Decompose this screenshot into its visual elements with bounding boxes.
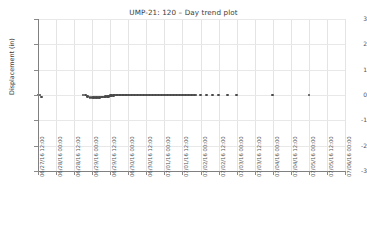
x-axis-tick-label: 07/02/16 12:00 [221,136,226,177]
x-axis-tick-label: 07/01/16 12:00 [184,136,189,177]
x-axis-tick-label: 07/06/16 00:00 [347,136,352,177]
x-axis-tick-label: 07/05/16 00:00 [311,136,316,177]
x-axis-tick-label: 06/28/16 00:00 [58,136,63,177]
x-axis-tick-label: 07/04/16 12:00 [293,136,298,177]
y-axis-label: Displacement (in) [9,38,15,95]
gridline-horizontal [38,70,345,71]
x-axis-tick-label: 06/28/16 12:00 [76,136,81,177]
gridline-horizontal [38,146,345,147]
x-axis-tick-label: 06/29/16 12:00 [112,136,117,177]
x-axis-tick-label: 07/02/16 00:00 [203,136,208,177]
y-axis-tick-label: -1 [337,117,367,123]
x-axis-tick-label: 07/03/16 12:00 [257,136,262,177]
x-axis-spine [38,171,346,172]
x-axis-tick-label: 07/04/16 00:00 [275,136,280,177]
y-axis-tick [34,70,38,71]
trend-plot-figure: UMP-21: 120 – Day trend plot Displacemen… [0,0,367,226]
x-axis-tick-label: 07/03/16 00:00 [239,136,244,177]
gridline-horizontal [38,19,345,20]
gridline-horizontal [38,44,345,45]
y-axis-tick [34,120,38,121]
y-axis-tick [34,44,38,45]
gridline-horizontal [38,120,345,121]
y-axis-tick [34,95,38,96]
x-axis-tick-label: 06/29/16 00:00 [94,136,99,177]
x-axis-tick-label: 07/05/16 12:00 [329,136,334,177]
data-point [40,96,43,99]
y-axis-tick-label: 1 [337,67,367,73]
y-axis-tick-label: 0 [337,92,367,98]
y-axis-tick [34,146,38,147]
y-axis-tick-label: 2 [337,41,367,47]
x-axis-tick-label: 06/30/16 12:00 [148,136,153,177]
chart-title: UMP-21: 120 – Day trend plot [0,8,367,17]
x-axis-tick-label: 07/01/16 00:00 [166,136,171,177]
x-axis-tick-label: 06/27/16 12:00 [40,136,45,177]
plot-area [38,19,345,171]
y-axis-tick [34,19,38,20]
y-axis-tick-label: 3 [337,16,367,22]
x-axis-tick-label: 06/30/16 00:00 [130,136,135,177]
